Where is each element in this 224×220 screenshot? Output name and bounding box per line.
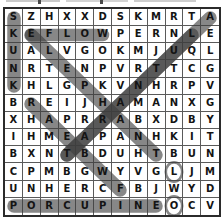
grid-cell[interactable]: M xyxy=(130,43,148,60)
grid-cell[interactable]: N xyxy=(130,198,148,215)
grid-cell[interactable]: R xyxy=(23,60,41,77)
grid-cell[interactable]: E xyxy=(201,26,219,43)
grid-cell[interactable]: R xyxy=(76,181,94,198)
grid-cell[interactable]: K xyxy=(130,9,148,26)
grid-cell[interactable]: J xyxy=(183,163,201,180)
grid-cell[interactable]: B xyxy=(5,146,23,163)
grid-cell[interactable]: R xyxy=(166,78,184,95)
grid-cell[interactable]: C xyxy=(183,60,201,77)
grid-cell[interactable]: M xyxy=(148,9,166,26)
grid-cell[interactable]: K xyxy=(166,129,184,146)
grid-cell[interactable]: U xyxy=(5,181,23,198)
grid-cell[interactable]: E xyxy=(148,198,166,215)
grid-cell[interactable]: B xyxy=(5,95,23,112)
grid-cell[interactable]: T xyxy=(166,60,184,77)
grid-cell[interactable]: S xyxy=(112,9,130,26)
grid-cell[interactable]: O xyxy=(23,198,41,215)
grid-cell[interactable]: P xyxy=(183,78,201,95)
grid-cell[interactable]: N xyxy=(166,26,184,43)
grid-cell[interactable]: W xyxy=(166,181,184,198)
grid-cell[interactable]: T xyxy=(201,129,219,146)
grid-cell[interactable]: X xyxy=(183,95,201,112)
grid-cell[interactable]: H xyxy=(23,112,41,129)
grid-cell[interactable]: G xyxy=(148,163,166,180)
grid-cell[interactable]: R xyxy=(148,26,166,43)
grid-cell[interactable]: H xyxy=(23,129,41,146)
grid-cell[interactable]: B xyxy=(76,146,94,163)
grid-cell[interactable]: J xyxy=(148,43,166,60)
grid-cell[interactable]: A xyxy=(148,95,166,112)
grid-cell[interactable]: P xyxy=(76,78,94,95)
grid-cell[interactable]: X xyxy=(148,112,166,129)
grid-cell[interactable]: L xyxy=(183,26,201,43)
grid-cell[interactable]: X xyxy=(23,146,41,163)
grid-cell[interactable]: U xyxy=(76,198,94,215)
grid-cell[interactable]: R xyxy=(76,112,94,129)
grid-cell[interactable]: Y xyxy=(201,112,219,129)
puzzle-grid[interactable]: SZHXXDSKMRTAKEFLOWPERNLEUALVGOKMJUQLNRTE… xyxy=(5,9,219,215)
grid-cell[interactable]: A xyxy=(41,112,59,129)
grid-cell[interactable]: B xyxy=(166,146,184,163)
grid-cell[interactable]: P xyxy=(59,112,77,129)
grid-cell[interactable]: R xyxy=(41,198,59,215)
grid-cell[interactable]: I xyxy=(183,129,201,146)
grid-cell[interactable]: S xyxy=(5,9,23,26)
grid-cell[interactable]: X xyxy=(5,112,23,129)
grid-cell[interactable]: P xyxy=(112,26,130,43)
grid-cell[interactable]: N xyxy=(76,60,94,77)
grid-cell[interactable]: T xyxy=(183,9,201,26)
grid-cell[interactable]: R xyxy=(94,112,112,129)
grid-cell[interactable]: B xyxy=(130,112,148,129)
grid-cell[interactable]: K xyxy=(112,43,130,60)
grid-cell[interactable]: V xyxy=(59,43,77,60)
grid-cell[interactable]: H xyxy=(41,181,59,198)
grid-cell[interactable]: C xyxy=(94,181,112,198)
grid-cell[interactable]: V xyxy=(112,78,130,95)
grid-cell[interactable]: O xyxy=(76,26,94,43)
grid-cell[interactable]: D xyxy=(94,9,112,26)
grid-cell[interactable]: D xyxy=(94,146,112,163)
grid-cell[interactable]: H xyxy=(130,146,148,163)
grid-cell[interactable]: X xyxy=(76,9,94,26)
grid-cell[interactable]: D xyxy=(201,181,219,198)
grid-cell[interactable]: W xyxy=(94,26,112,43)
grid-cell[interactable]: E xyxy=(59,129,77,146)
grid-cell[interactable]: M xyxy=(41,129,59,146)
grid-cell[interactable]: K xyxy=(5,78,23,95)
grid-cell[interactable]: N xyxy=(130,78,148,95)
grid-cell[interactable]: U xyxy=(5,43,23,60)
grid-cell[interactable]: A xyxy=(112,129,130,146)
grid-cell[interactable]: O xyxy=(166,198,184,215)
grid-cell[interactable]: J xyxy=(148,181,166,198)
grid-cell[interactable]: R xyxy=(166,9,184,26)
grid-cell[interactable]: K xyxy=(5,26,23,43)
grid-cell[interactable]: N xyxy=(5,60,23,77)
grid-cell[interactable]: A xyxy=(23,43,41,60)
grid-cell[interactable]: T xyxy=(148,146,166,163)
grid-cell[interactable]: T xyxy=(41,60,59,77)
grid-cell[interactable]: B xyxy=(59,163,77,180)
grid-cell[interactable]: V xyxy=(201,198,219,215)
grid-cell[interactable]: M xyxy=(130,95,148,112)
grid-cell[interactable]: L xyxy=(41,78,59,95)
grid-cell[interactable]: P xyxy=(94,198,112,215)
grid-cell[interactable]: I xyxy=(5,129,23,146)
grid-cell[interactable]: R xyxy=(23,95,41,112)
grid-cell[interactable]: M xyxy=(201,163,219,180)
grid-cell[interactable]: F xyxy=(112,181,130,198)
grid-cell[interactable]: R xyxy=(130,60,148,77)
grid-cell[interactable]: E xyxy=(23,26,41,43)
grid-cell[interactable]: F xyxy=(41,26,59,43)
grid-cell[interactable]: P xyxy=(23,163,41,180)
grid-cell[interactable]: A xyxy=(201,9,219,26)
grid-cell[interactable]: I xyxy=(59,95,77,112)
grid-cell[interactable]: V xyxy=(112,60,130,77)
grid-cell[interactable]: H xyxy=(148,129,166,146)
grid-cell[interactable]: H xyxy=(94,95,112,112)
grid-cell[interactable]: L xyxy=(59,26,77,43)
grid-cell[interactable]: V xyxy=(201,78,219,95)
grid-cell[interactable]: G xyxy=(201,95,219,112)
grid-cell[interactable]: W xyxy=(94,163,112,180)
grid-cell[interactable]: C xyxy=(59,198,77,215)
grid-cell[interactable]: G xyxy=(59,78,77,95)
